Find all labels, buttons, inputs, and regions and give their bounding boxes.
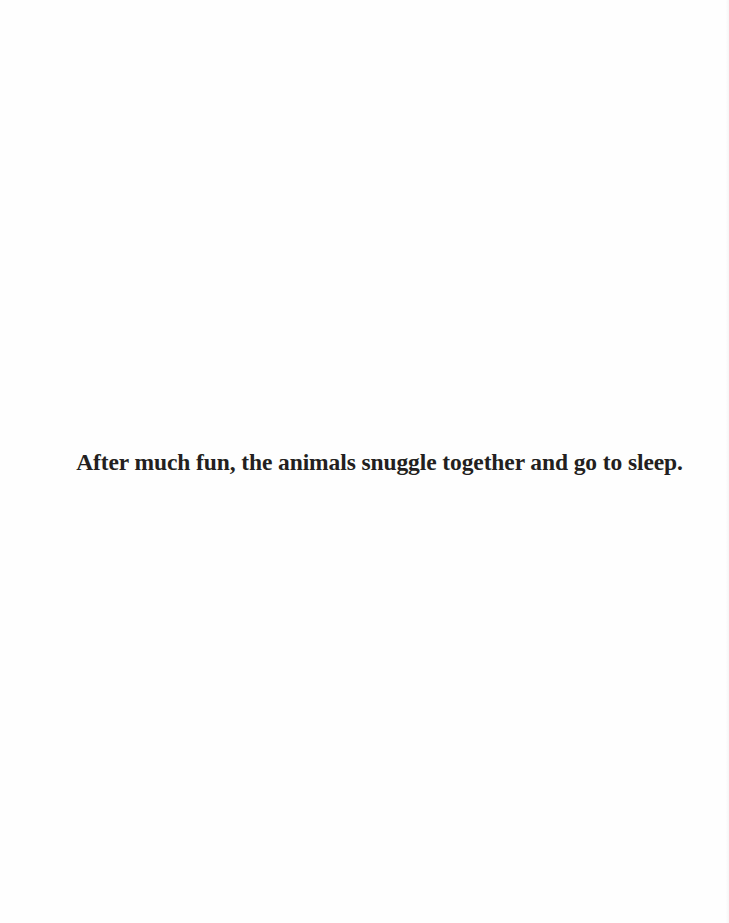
book-page: After much fun, the animals snuggle toge… xyxy=(0,0,729,923)
page-caption: After much fun, the animals snuggle toge… xyxy=(0,447,729,477)
